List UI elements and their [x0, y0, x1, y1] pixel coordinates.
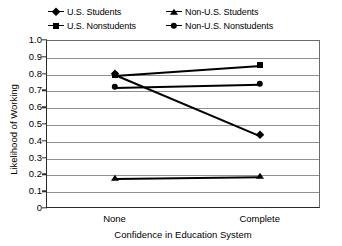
line-chart: U.S. Students Non-U.S. Students U.S. Non… — [0, 0, 342, 246]
y-axis-tick-mark — [42, 106, 47, 107]
y-axis-tick-mark — [42, 174, 47, 175]
y-axis-tick-mark — [42, 73, 47, 74]
y-axis-tick-label: 0 — [6, 203, 42, 213]
y-axis-tick-mark — [42, 207, 47, 208]
y-axis-tick-mark — [42, 123, 47, 124]
y-axis-tick-label: 1.0 — [6, 35, 42, 45]
y-axis-tick-mark — [42, 190, 47, 191]
y-axis-tick-mark — [42, 56, 47, 57]
y-axis-tick-mark — [42, 140, 47, 141]
y-axis-tick-mark — [42, 39, 47, 40]
y-axis-tick-mark — [42, 157, 47, 158]
y-axis: 1.00.90.80.70.60.50.40.30.20.10 — [0, 0, 342, 246]
y-axis-tick-mark — [42, 90, 47, 91]
y-axis-title: Likelihood of Working — [8, 55, 19, 205]
x-axis-tick-label: Complete — [239, 213, 280, 224]
x-axis-title: Confidence in Education System — [46, 229, 320, 240]
x-axis-tick-label: None — [103, 213, 126, 224]
